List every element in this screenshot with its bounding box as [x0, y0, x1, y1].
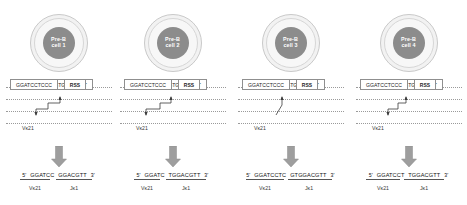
- product-j-label: Jκ1: [420, 185, 428, 191]
- product-j-segment: GGACGTT: [58, 172, 87, 178]
- five-prime-label: 5': [246, 172, 250, 178]
- cell-label-line2: cell 4: [401, 43, 415, 49]
- j-underbar: [56, 179, 92, 180]
- cell-label-line2: cell 3: [283, 43, 297, 49]
- process-arrow-icon: [282, 146, 299, 168]
- rss-box-bottom: RSS: [296, 79, 318, 90]
- cell-nucleus: Pre-B cell 1: [43, 27, 75, 59]
- vk-segment-label: Vκ21: [136, 125, 148, 131]
- panel-cell-3: Pre-B cell 3 Jκ1 RSS GTGGACGTT GGATCCTCC…: [232, 0, 349, 205]
- product-segment-labels: Vκ21 Jκ1: [0, 185, 117, 194]
- product-j-label: Jκ1: [70, 185, 78, 191]
- vk-sequence-box: GGATCCTCCC: [242, 79, 290, 90]
- pre-b-cell-illustration: Pre-B cell 1: [30, 14, 88, 72]
- rss-box-bottom: RSS: [178, 79, 200, 90]
- product-v-segment: GGATCCTC: [254, 172, 286, 178]
- cell-nucleus: Pre-B cell 2: [157, 27, 189, 59]
- rss-box-bottom: RSS: [414, 79, 436, 90]
- panel-cell-1: Pre-B cell 1 Jκ1 RSS GTGGACGTT GGATCCTCC…: [0, 0, 117, 205]
- product-j-segment: TGGACGTT: [408, 172, 440, 178]
- five-prime-label: 5': [369, 172, 373, 178]
- cell-label-line2: cell 2: [165, 43, 179, 49]
- three-prime-label: 3': [91, 172, 95, 178]
- figure-canvas: Pre-B cell 1 Jκ1 RSS GTGGACGTT GGATCCTCC…: [0, 0, 467, 205]
- product-sequence: 5' GGATCCT TGGACGTT 3': [350, 172, 467, 178]
- cell-label-line2: cell 1: [51, 43, 65, 49]
- recombination-diagram: Jκ1 RSS GTGGACGTT GGATCCTCCC RSS Vκ21: [0, 78, 117, 146]
- vk-sequence-box: GGATCCTCCC: [10, 79, 58, 90]
- product-segment-labels: Vκ21 Jκ1: [232, 185, 349, 194]
- panel-cell-4: Pre-B cell 4 Jκ1 RSS GTGGACGTT GGATCCTCC…: [350, 0, 467, 205]
- v-underbar: [246, 179, 284, 180]
- product-v-label: Vκ21: [141, 185, 153, 191]
- v-underbar: [134, 179, 160, 180]
- product-sequence: 5' GGATC TGGACGTT 3': [114, 172, 231, 178]
- recombined-product: 5' GGATCC GGACGTT 3' Vκ21 Jκ1: [0, 172, 117, 194]
- product-j-segment: GTGGACGTT: [290, 172, 327, 178]
- v-underbar: [366, 179, 400, 180]
- bottom-dna-strand: [238, 111, 344, 124]
- recombination-diagram: Jκ1 RSS GTGGACGTT GGATCCTCCC RSS Vκ21: [232, 78, 349, 146]
- product-v-label: Vκ21: [259, 185, 271, 191]
- three-prime-label: 3': [204, 172, 208, 178]
- five-prime-label: 5': [137, 172, 141, 178]
- process-arrow-icon: [164, 146, 181, 168]
- product-j-label: Jκ1: [182, 185, 190, 191]
- v-underbar: [20, 179, 50, 180]
- product-v-segment: GGATCC: [30, 172, 54, 178]
- product-v-label: Vκ21: [29, 185, 41, 191]
- product-j-label: Jκ1: [305, 185, 313, 191]
- product-v-segment: GGATC: [145, 172, 165, 178]
- product-v-label: Vκ21: [377, 185, 389, 191]
- bottom-dna-strand: [356, 111, 462, 124]
- vk-segment-label: Vκ21: [372, 125, 384, 131]
- product-segment-labels: Vκ21 Jκ1: [114, 185, 231, 194]
- j-underbar: [166, 179, 206, 180]
- pre-b-cell-illustration: Pre-B cell 3: [262, 14, 320, 72]
- recombined-product: 5' GGATC TGGACGTT 3' Vκ21 Jκ1: [114, 172, 231, 194]
- pre-b-cell-illustration: Pre-B cell 4: [380, 14, 438, 72]
- vk-segment-label: Vκ21: [22, 125, 34, 131]
- cell-nucleus: Pre-B cell 3: [275, 27, 307, 59]
- bottom-dna-strand: [120, 111, 226, 124]
- three-prime-label: 3': [444, 172, 448, 178]
- j-underbar: [288, 179, 332, 180]
- panel-cell-2: Pre-B cell 2 Jκ1 RSS GTGGACGTT GGATCCTCC…: [114, 0, 231, 205]
- bottom-dna-strand: [6, 111, 112, 124]
- recombined-product: 5' GGATCCTC GTGGACGTT 3' Vκ21 Jκ1: [232, 172, 349, 194]
- five-prime-label: 5': [22, 172, 26, 178]
- pre-b-cell-illustration: Pre-B cell 2: [144, 14, 202, 72]
- product-sequence: 5' GGATCC GGACGTT 3': [0, 172, 117, 178]
- vk-sequence-box: GGATCCTCCC: [124, 79, 172, 90]
- j-underbar: [404, 179, 444, 180]
- process-arrow-icon: [400, 146, 417, 168]
- rss-box-bottom: RSS: [64, 79, 86, 90]
- recombination-diagram: Jκ1 RSS GTGGACGTT GGATCCTCCC RSS Vκ21: [350, 78, 467, 146]
- recombined-product: 5' GGATCCT TGGACGTT 3' Vκ21 Jκ1: [350, 172, 467, 194]
- product-j-segment: TGGACGTT: [168, 172, 200, 178]
- cell-nucleus: Pre-B cell 4: [393, 27, 425, 59]
- process-arrow-icon: [50, 146, 67, 168]
- product-sequence: 5' GGATCCTC GTGGACGTT 3': [232, 172, 349, 178]
- vk-sequence-box: GGATCCTCCC: [360, 79, 408, 90]
- product-v-segment: GGATCCT: [377, 172, 405, 178]
- three-prime-label: 3': [331, 172, 335, 178]
- product-segment-labels: Vκ21 Jκ1: [350, 185, 467, 194]
- recombination-diagram: Jκ1 RSS GTGGACGTT GGATCCTCCC RSS Vκ21: [114, 78, 231, 146]
- vk-segment-label: Vκ21: [254, 125, 266, 131]
